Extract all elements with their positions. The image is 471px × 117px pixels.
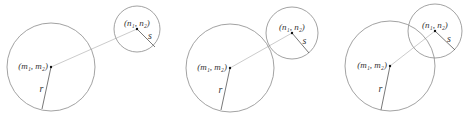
radius-r-label: r (40, 83, 44, 94)
small-center-label: (n₁, n₂) (422, 20, 448, 30)
small-center-label: (n₁, n₂) (124, 18, 150, 28)
center-dot (434, 30, 436, 32)
big-center-label: (m₁, m₂) (357, 60, 387, 70)
radius-s-label: s (447, 33, 451, 44)
radius-s-line (435, 31, 455, 50)
center-line (390, 31, 435, 66)
big-center-label: (m₁, m₂) (197, 62, 227, 72)
center-dot (50, 66, 52, 68)
center-line (230, 33, 292, 68)
center-dot (136, 28, 138, 30)
radius-s-label: s (148, 30, 152, 41)
two-circles-diagram: (m₁, m₂)(n₁, n₂)rs(m₁, m₂)(n₁, n₂)rs(m₁,… (0, 0, 471, 117)
center-dot (291, 32, 293, 34)
big-center-label: (m₁, m₂) (18, 61, 48, 71)
radius-r-label: r (219, 84, 223, 95)
center-dot (389, 65, 391, 67)
radius-r-label: r (379, 83, 383, 94)
radius-s-line (137, 29, 155, 47)
center-dot (229, 67, 231, 69)
radius-s-label: s (303, 35, 307, 46)
small-center-label: (n₁, n₂) (279, 22, 305, 32)
radius-s-line (292, 33, 309, 53)
